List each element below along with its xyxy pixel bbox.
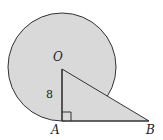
label-a: A [50, 123, 60, 137]
label-o: O [53, 50, 63, 64]
label-b: B [145, 123, 155, 137]
geometry-diagram: O 8 A B [0, 0, 163, 140]
label-radius-length: 8 [46, 88, 53, 101]
